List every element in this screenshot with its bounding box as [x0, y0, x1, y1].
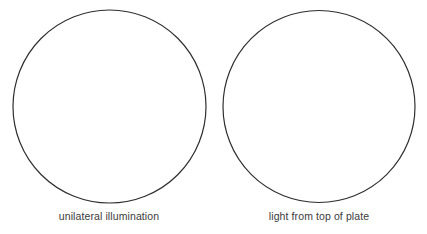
left-plate-caption: unilateral illumination — [9, 209, 209, 223]
left-plate-circle — [13, 10, 206, 203]
diagram-canvas — [0, 0, 427, 234]
right-plate-circle — [223, 11, 415, 203]
right-plate-caption: light from top of plate — [219, 209, 419, 223]
